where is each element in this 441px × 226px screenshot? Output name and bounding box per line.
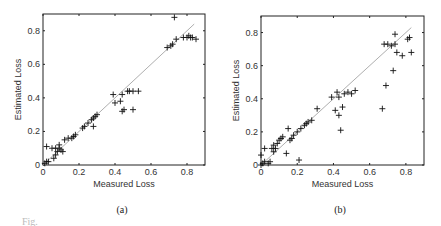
- y-tick-label: 0.2: [27, 126, 40, 136]
- figure-caption-fragment: Fig.: [22, 216, 38, 226]
- y-tick-label: 0.4: [245, 94, 258, 104]
- x-axis-label: Measured Loss: [312, 179, 374, 189]
- y-tick-label: 0: [35, 160, 40, 170]
- y-tick-label: 0.6: [27, 59, 40, 69]
- x-tick-label: 0.4: [109, 167, 122, 177]
- x-tick-label: 0.8: [181, 167, 194, 177]
- x-tick-label: 0.2: [291, 167, 304, 177]
- y-tick-label: 0.6: [245, 61, 258, 71]
- y-tick-label: 0.2: [245, 127, 258, 137]
- y-axis-label: Estimated Loss: [13, 58, 23, 120]
- x-axis-label: Measured Loss: [93, 179, 155, 189]
- y-tick-label: 0: [253, 160, 258, 170]
- x-tick-label: 0: [258, 167, 263, 177]
- figure: 00.20.40.60.800.20.40.60.8Measured LossE…: [0, 0, 441, 226]
- y-tick-label: 0.4: [27, 93, 40, 103]
- scatter-panel-a: 00.20.40.60.800.20.40.60.8Measured LossE…: [13, 14, 205, 216]
- y-axis-label: Estimated Loss: [231, 59, 241, 121]
- x-tick-label: 0: [40, 167, 45, 177]
- panel-caption: (a): [116, 204, 127, 216]
- x-tick-label: 0.8: [400, 167, 413, 177]
- panel-caption: (b): [334, 204, 346, 216]
- x-tick-label: 0.6: [363, 167, 376, 177]
- y-tick-label: 0.8: [27, 26, 40, 36]
- y-tick-label: 0.8: [245, 28, 258, 38]
- x-tick-label: 0.6: [145, 167, 158, 177]
- x-tick-label: 0.2: [73, 167, 86, 177]
- scatter-panel-b: 00.20.40.60.800.20.40.60.8Measured LossE…: [231, 16, 424, 216]
- x-tick-label: 0.4: [327, 167, 340, 177]
